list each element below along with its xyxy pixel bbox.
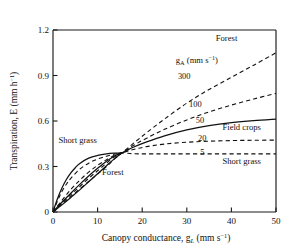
annotation-val-5: 5 [200,148,204,157]
svg-text:Transpiration, E (mm h−1): Transpiration, E (mm h−1) [8,72,20,171]
annotation-val-20: 20 [198,134,206,143]
annotation-short-grass-l: Short grass [58,135,97,145]
x-tick-label-20: 20 [138,216,148,226]
x-tick-label-0: 0 [51,216,56,226]
x-tick-label-10: 10 [93,216,103,226]
annotation-forest-left: Forest [102,167,124,177]
x-axis-title-exponent: −1 [221,232,228,239]
y-tick-label-0.3: 0.3 [38,162,50,172]
y-tick-label-0: 0 [45,207,50,217]
y-axis-title-close: ) [9,72,20,75]
legend-title-close: ) [215,55,218,65]
y-tick-label-1.2: 1.2 [38,25,49,35]
annotation-val-100: 100 [189,100,202,109]
x-axis-title-base: Canopy conductance, g [102,233,191,243]
x-tick-label-50: 50 [272,216,282,226]
figure-container: 0102030405000.30.60.91.2 Forest300100502… [0,0,296,252]
x-tick-label-40: 40 [227,216,237,226]
x-axis-title-units: (mm s [197,233,221,244]
y-tick-label-0.9: 0.9 [38,71,50,81]
legend-title-units: (mm s [187,55,209,65]
x-axis-title-close: ) [227,233,230,244]
annotation-forest-top: Forest [216,33,238,43]
annotation-val-50: 50 [196,116,204,125]
svg-text:Canopy conductance, gL (mm s−1: Canopy conductance, gL (mm s−1) [102,232,231,244]
annotation-field-crops: Field crops [223,122,262,132]
y-tick-label-0.6: 0.6 [38,116,50,126]
y-axis-title: Transpiration, E (mm h−1) [8,72,20,171]
annotation-val-300: 300 [178,72,191,81]
transpiration-vs-canopy-conductance-chart: 0102030405000.30.60.91.2 Forest300100502… [0,0,296,252]
x-tick-label-30: 30 [182,216,192,226]
y-axis-title-base: Transpiration, E (mm h [9,81,20,170]
x-axis-title: Canopy conductance, gL (mm s−1) [102,232,231,244]
annotation-short-grass-r: Short grass [223,156,262,166]
